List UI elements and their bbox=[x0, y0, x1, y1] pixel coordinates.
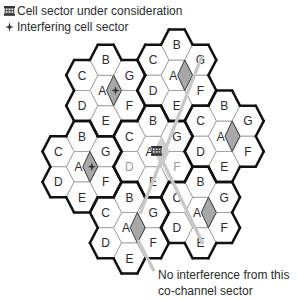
cell-label-A: A bbox=[217, 130, 225, 144]
cell-label-A: A bbox=[122, 221, 130, 235]
annotation-line: No interference from this bbox=[158, 267, 289, 283]
cell-label-A: A bbox=[98, 84, 106, 98]
cell-label-D: D bbox=[125, 160, 134, 174]
cell-label-E: E bbox=[125, 252, 133, 266]
cell-label-C: C bbox=[101, 206, 110, 220]
cell-label-C: C bbox=[196, 114, 205, 128]
cell-label-F: F bbox=[126, 99, 133, 113]
cell-label-E: E bbox=[102, 114, 110, 128]
hexagonal-cell-reuse-diagram: ABCGDFEABCGDFEABCGDFEABCGDFEABCGDFEABCGD… bbox=[0, 0, 297, 300]
cell-label-B: B bbox=[220, 99, 228, 113]
cell-label-F: F bbox=[102, 175, 109, 189]
cell-label-G: G bbox=[148, 206, 157, 220]
cell-label-A: A bbox=[193, 206, 201, 220]
cell-label-B: B bbox=[173, 38, 181, 52]
cell-label-D: D bbox=[54, 175, 63, 189]
legend-label: Interfering cell sector bbox=[17, 19, 128, 35]
base-station-icon bbox=[4, 6, 15, 16]
cell-label-D: D bbox=[172, 221, 181, 235]
cell-label-G: G bbox=[220, 191, 229, 205]
cell-label-D: D bbox=[149, 84, 158, 98]
cell-label-F: F bbox=[197, 84, 204, 98]
legend-item-interfering-sector: Interfering cell sector bbox=[0, 19, 297, 35]
cell-label-G: G bbox=[101, 145, 110, 159]
cell-label-C: C bbox=[149, 53, 158, 67]
no-interference-annotation: No interference from this co-channel sec… bbox=[158, 267, 289, 299]
cell-label-A: A bbox=[169, 69, 177, 83]
cell-label-B: B bbox=[102, 53, 110, 67]
legend-label: Cell sector under consideration bbox=[17, 3, 182, 19]
cell-label-F: F bbox=[221, 221, 228, 235]
cell-label-C: C bbox=[125, 130, 134, 144]
cell-label-B: B bbox=[125, 191, 133, 205]
cell-label-C: C bbox=[54, 145, 63, 159]
cell-label-A: A bbox=[74, 160, 82, 174]
cell-label-F: F bbox=[244, 145, 251, 159]
cell-label-D: D bbox=[101, 236, 110, 250]
cell-label-B: B bbox=[78, 130, 86, 144]
cell-label-C: C bbox=[78, 69, 87, 83]
base-station-icon bbox=[151, 146, 162, 156]
cell-label-G: G bbox=[125, 69, 134, 83]
cell-label-B: B bbox=[149, 114, 157, 128]
cell-label-B: B bbox=[196, 175, 204, 189]
interferer-cross-icon bbox=[5, 22, 14, 32]
cell-label-D: D bbox=[78, 99, 87, 113]
cell-label-E: E bbox=[220, 160, 228, 174]
annotation-line: co-channel sector bbox=[158, 283, 289, 299]
legend-item-serving-sector: Cell sector under consideration bbox=[0, 3, 297, 19]
cell-label-E: E bbox=[78, 191, 86, 205]
cell-label-D: D bbox=[196, 145, 205, 159]
cell-label-F: F bbox=[149, 236, 156, 250]
cell-label-F: F bbox=[173, 160, 180, 174]
cell-label-G: G bbox=[243, 114, 252, 128]
